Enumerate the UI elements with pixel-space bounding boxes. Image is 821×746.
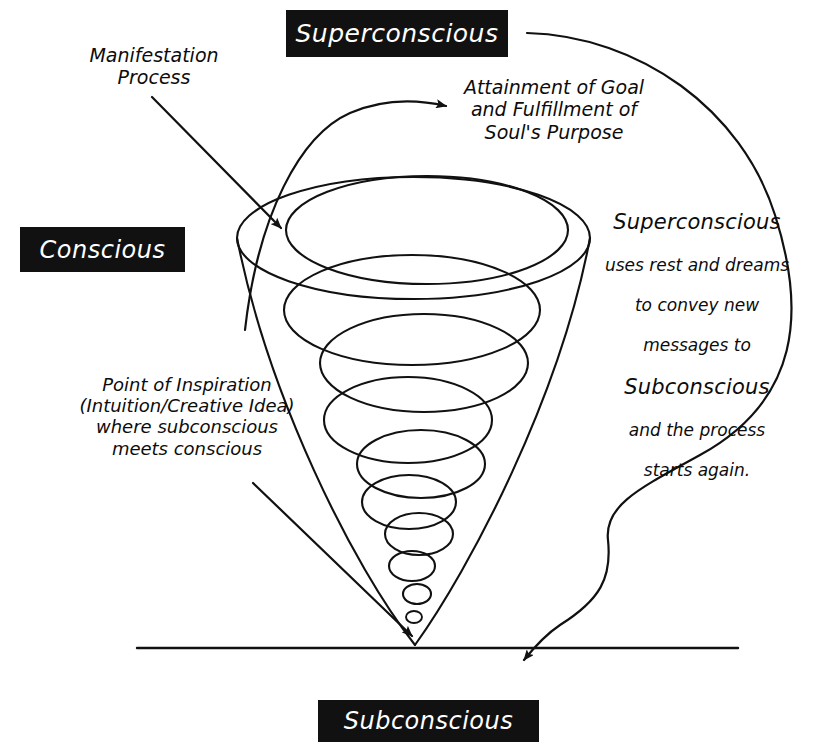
cycle-line-4: messages to (597, 335, 797, 355)
spiral-ring-7 (385, 513, 453, 555)
diagram-canvas: Superconscious Conscious Subconscious Ma… (0, 0, 821, 746)
arrow-attainment (245, 102, 446, 330)
arrow-inspiration (253, 483, 412, 636)
spiral-ring-9 (403, 584, 431, 604)
spiral-ring-5 (357, 430, 485, 498)
cycle-line-3: to convey new (597, 295, 797, 315)
label-box-superconscious[interactable]: Superconscious (286, 10, 508, 57)
cycle-line-1: Superconscious (597, 210, 797, 235)
annotation-superconscious-cycle: Superconscious uses rest and dreams to c… (597, 190, 797, 500)
spiral-ring-6 (362, 475, 456, 529)
spiral-ring-2 (284, 255, 540, 365)
cycle-line-5: Subconscious (597, 375, 797, 400)
label-box-conscious[interactable]: Conscious (20, 227, 185, 272)
cycle-line-7: starts again. (597, 460, 797, 480)
label-subconscious-text: Subconscious (344, 707, 514, 735)
spiral-ring-3 (320, 314, 528, 412)
spiral-ring-10 (406, 611, 422, 623)
label-superconscious-text: Superconscious (295, 19, 498, 48)
label-box-subconscious[interactable]: Subconscious (318, 700, 539, 742)
annotation-attainment-of-goal: Attainment of Goal and Fulfillment of So… (447, 76, 661, 143)
spiral-ring-4 (324, 377, 492, 463)
label-conscious-text: Conscious (40, 236, 166, 264)
arrow-manifestation (152, 97, 281, 228)
annotation-point-of-inspiration: Point of Inspiration (Intuition/Creative… (62, 374, 312, 459)
annotation-manifestation-process: Manifestation Process (54, 44, 254, 89)
cycle-line-2: uses rest and dreams (597, 255, 797, 275)
spiral-rings (284, 176, 568, 623)
cycle-line-6: and the process (597, 420, 797, 440)
